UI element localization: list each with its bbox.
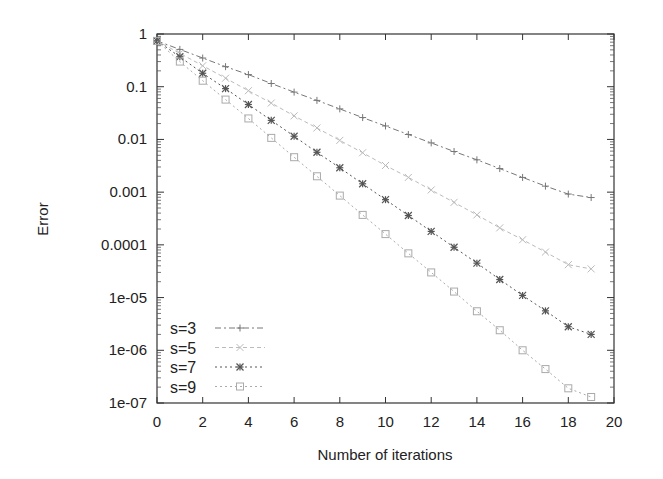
x-tick-label: 16 <box>514 413 531 430</box>
legend-label: s=3 <box>170 320 196 337</box>
y-axis-tick-labels: 10.10.010.0010.00011e-051e-061e-07 <box>101 25 147 411</box>
legend-item: s=7 <box>170 359 265 376</box>
series-s-9 <box>154 37 595 400</box>
legend-item: s=3 <box>170 320 265 337</box>
y-tick-label: 0.01 <box>118 130 147 147</box>
x-tick-label: 18 <box>560 413 577 430</box>
series-s-7 <box>154 37 595 338</box>
legend-label: s=9 <box>170 379 196 396</box>
x-tick-label: 6 <box>290 413 298 430</box>
line-chart: 02468101214161820 10.10.010.0010.00011e-… <box>0 0 663 479</box>
legend-label: s=7 <box>170 359 196 376</box>
x-tick-label: 10 <box>377 413 394 430</box>
y-tick-label: 1e-05 <box>109 289 147 306</box>
legend-item: s=9 <box>170 379 265 396</box>
x-axis-tick-labels: 02468101214161820 <box>153 413 623 430</box>
y-tick-label: 0.0001 <box>101 236 147 253</box>
data-series <box>154 37 595 400</box>
x-tick-label: 8 <box>336 413 344 430</box>
y-tick-label: 1e-06 <box>109 341 147 358</box>
x-tick-label: 4 <box>244 413 252 430</box>
series-s-5 <box>154 37 595 272</box>
y-tick-label: 1e-07 <box>109 394 147 411</box>
y-tick-label: 0.001 <box>109 183 147 200</box>
x-tick-label: 20 <box>606 413 623 430</box>
legend: s=3s=5s=7s=9 <box>170 320 265 396</box>
legend-item: s=5 <box>170 340 265 357</box>
y-tick-label: 0.1 <box>126 78 147 95</box>
legend-label: s=5 <box>170 340 196 357</box>
x-tick-label: 14 <box>469 413 486 430</box>
series-s-3 <box>154 37 595 201</box>
x-tick-label: 12 <box>423 413 440 430</box>
y-tick-label: 1 <box>139 25 147 42</box>
y-axis-title: Error <box>34 202 51 235</box>
x-tick-label: 0 <box>153 413 161 430</box>
x-axis-title: Number of iterations <box>317 446 452 463</box>
x-tick-label: 2 <box>199 413 207 430</box>
